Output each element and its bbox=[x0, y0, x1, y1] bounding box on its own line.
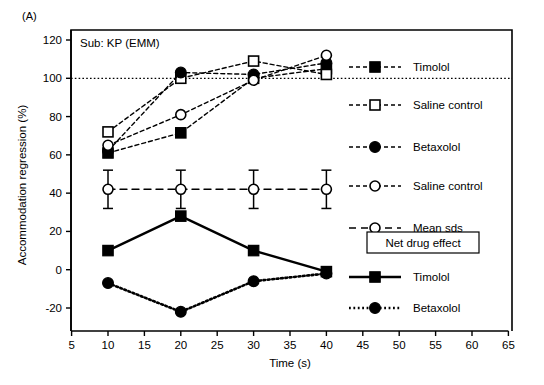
subject-annotation: Sub: KP (EMM) bbox=[80, 37, 160, 49]
marker-filled-square bbox=[103, 245, 113, 255]
y-axis-tick-label: 120 bbox=[43, 34, 62, 46]
y-axis-tick-label: -20 bbox=[45, 302, 62, 314]
marker-filled-circle bbox=[370, 303, 381, 314]
marker-open-circle bbox=[249, 75, 259, 85]
legend-entry-label: Betaxolol bbox=[413, 141, 460, 153]
marker-filled-circle bbox=[321, 268, 332, 279]
x-axis-tick-label: 25 bbox=[211, 339, 224, 351]
marker-filled-square bbox=[248, 245, 258, 255]
marker-open-circle bbox=[321, 184, 331, 194]
panel-label: (A) bbox=[22, 10, 37, 22]
y-axis-tick-label: 80 bbox=[49, 111, 62, 123]
marker-filled-square bbox=[176, 211, 186, 221]
y-axis-title: Accommodation regression (%) bbox=[16, 105, 28, 266]
legend-net-entry-label: Betaxolol bbox=[413, 302, 460, 314]
legend-entry-label: Saline control bbox=[413, 180, 483, 192]
y-axis-tick-label: 0 bbox=[56, 264, 62, 276]
marker-filled-square bbox=[370, 272, 380, 282]
chart-background bbox=[0, 0, 544, 385]
x-axis-tick-label: 35 bbox=[284, 339, 297, 351]
marker-open-square bbox=[370, 100, 380, 110]
y-axis-tick-label: 60 bbox=[49, 149, 62, 161]
x-axis-tick-label: 60 bbox=[466, 339, 479, 351]
accommodation-regression-chart: (A) -20020406080100120 51015202530354045… bbox=[0, 0, 544, 385]
x-axis-tick-label: 10 bbox=[102, 339, 115, 351]
marker-filled-circle bbox=[248, 276, 259, 287]
y-axis-tick-label: 40 bbox=[49, 187, 62, 199]
marker-open-circle bbox=[370, 181, 380, 191]
x-axis-title: Time (s) bbox=[269, 357, 311, 369]
marker-open-square bbox=[321, 69, 331, 79]
marker-open-circle bbox=[103, 140, 113, 150]
x-axis-tick-label: 50 bbox=[393, 339, 406, 351]
marker-filled-square bbox=[176, 128, 186, 138]
x-axis-tick-label: 15 bbox=[138, 339, 151, 351]
net-drug-effect-box: Net drug effect bbox=[367, 232, 479, 253]
marker-filled-circle bbox=[103, 278, 114, 289]
marker-open-square bbox=[249, 56, 259, 66]
marker-open-circle bbox=[103, 184, 113, 194]
marker-open-circle bbox=[321, 50, 331, 60]
x-axis-tick-label: 55 bbox=[429, 339, 442, 351]
legend-entry-label: Saline control bbox=[413, 99, 483, 111]
marker-filled-circle bbox=[175, 306, 186, 317]
x-axis-tick-label: 45 bbox=[356, 339, 369, 351]
marker-filled-circle bbox=[370, 142, 381, 153]
marker-open-square bbox=[103, 127, 113, 137]
marker-open-circle bbox=[176, 184, 186, 194]
x-axis-tick-label: 20 bbox=[174, 339, 187, 351]
marker-filled-square bbox=[370, 62, 380, 72]
x-axis-tick-label: 30 bbox=[247, 339, 260, 351]
marker-filled-circle bbox=[175, 67, 186, 78]
legend-net-entry-label: Timolol bbox=[413, 271, 450, 283]
marker-open-circle bbox=[176, 110, 186, 120]
marker-open-circle bbox=[249, 184, 259, 194]
x-axis-tick-label: 40 bbox=[320, 339, 333, 351]
net-drug-effect-title: Net drug effect bbox=[385, 237, 461, 249]
x-axis-tick-label: 5 bbox=[68, 339, 74, 351]
y-axis-tick-label: 100 bbox=[43, 72, 62, 84]
x-axis-tick-label: 65 bbox=[502, 339, 515, 351]
y-axis-tick-label: 20 bbox=[49, 225, 62, 237]
legend-entry-label: Timolol bbox=[413, 61, 450, 73]
figure-panel: (A) -20020406080100120 51015202530354045… bbox=[0, 0, 544, 385]
